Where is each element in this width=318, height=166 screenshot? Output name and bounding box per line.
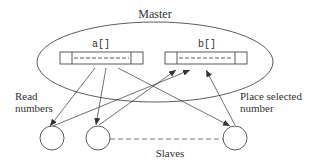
read-numbers-label-line2: numbers [15, 102, 53, 114]
arrow-slave1-to-b [53, 70, 190, 126]
array-b-label: b[] [198, 39, 216, 50]
slaves-label: Slaves [156, 147, 185, 159]
master-slave-diagram: Master a[] b[] Read numbers Place select… [0, 0, 318, 166]
slave-node-3 [223, 126, 247, 150]
arrow-a-to-slave2 [96, 68, 106, 125]
slave-node-2 [86, 126, 110, 150]
place-selected-label-line2: number [240, 102, 274, 114]
array-b: b[] [165, 39, 247, 64]
place-selected-label-line1: Place selected [240, 90, 302, 102]
slave-node-1 [40, 126, 64, 150]
arrow-a-to-slave1 [50, 68, 95, 126]
array-a: a[] [60, 39, 143, 64]
read-numbers-label-line1: Read [15, 90, 38, 102]
master-label: Master [138, 7, 171, 21]
array-a-label: a[] [92, 39, 110, 50]
